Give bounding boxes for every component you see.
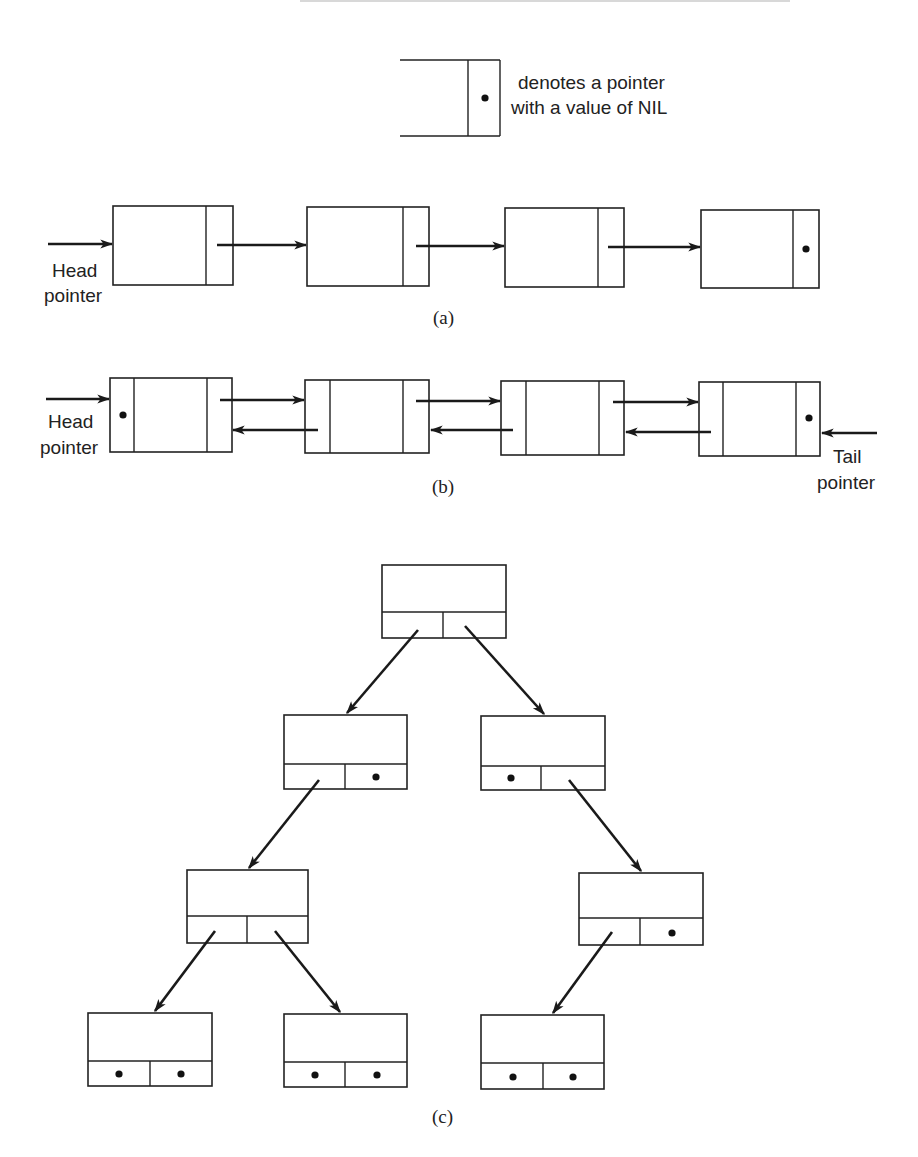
cropped-page-number bbox=[760, 0, 790, 2]
head-pointer-label-line2: pointer bbox=[40, 437, 99, 458]
head-pointer-label-line1: Head bbox=[48, 411, 93, 432]
figure-b-doubly-linked-list: Head pointer Ta bbox=[40, 378, 877, 498]
tree-node-root bbox=[382, 565, 506, 638]
nil-pointer-dot-icon bbox=[115, 1070, 122, 1077]
nil-pointer-dot-icon bbox=[802, 245, 809, 252]
figure-c-caption: (c) bbox=[432, 1106, 453, 1128]
cropped-page-header bbox=[300, 0, 770, 2]
dlist-node-4 bbox=[699, 382, 820, 456]
tree-node-n3 bbox=[187, 870, 308, 943]
left-child-arrow-icon bbox=[155, 931, 215, 1011]
left-child-arrow-icon bbox=[347, 630, 418, 713]
tree-node-n5 bbox=[88, 1013, 212, 1086]
nil-pointer-dot-icon bbox=[481, 94, 488, 101]
nil-pointer-dot-icon bbox=[507, 774, 514, 781]
nil-pointer-dot-icon bbox=[177, 1070, 184, 1077]
tree-node-n4 bbox=[579, 873, 703, 945]
nil-pointer-dot-icon bbox=[119, 411, 126, 418]
tree-node-n2 bbox=[481, 716, 605, 790]
list-node-3 bbox=[505, 208, 624, 287]
tail-pointer-label-line1: Tail bbox=[833, 446, 862, 467]
head-pointer-label-line1: Head bbox=[52, 260, 97, 281]
diagram-canvas: denotes a pointer with a value of NIL He… bbox=[0, 0, 918, 1157]
left-child-arrow-icon bbox=[553, 932, 612, 1013]
nil-pointer-dot-icon bbox=[372, 773, 379, 780]
legend-text-line2: with a value of NIL bbox=[510, 97, 667, 118]
left-child-arrow-icon bbox=[249, 780, 319, 868]
list-node-4 bbox=[701, 210, 819, 288]
figure-a-singly-linked-list: Head pointer (a) bbox=[44, 206, 819, 329]
nil-pointer-dot-icon bbox=[509, 1073, 516, 1080]
nil-pointer-dot-icon bbox=[569, 1073, 576, 1080]
nil-pointer-dot-icon bbox=[805, 414, 812, 421]
figure-a-caption: (a) bbox=[433, 307, 454, 329]
list-node-2 bbox=[307, 207, 429, 286]
tree-node-n1 bbox=[284, 715, 407, 789]
dlist-node-3 bbox=[501, 381, 624, 455]
list-node-1 bbox=[113, 206, 233, 285]
head-pointer-label-line2: pointer bbox=[44, 285, 103, 306]
dlist-node-1 bbox=[110, 378, 232, 452]
nil-pointer-dot-icon bbox=[373, 1071, 380, 1078]
nil-pointer-dot-icon bbox=[668, 929, 675, 936]
right-child-arrow-icon bbox=[465, 626, 544, 714]
tail-pointer-label-line2: pointer bbox=[817, 472, 876, 493]
right-child-arrow-icon bbox=[569, 780, 641, 871]
tree-node-n7 bbox=[481, 1015, 604, 1089]
figure-c-binary-tree: (c) bbox=[88, 565, 703, 1128]
tree-node-n6 bbox=[284, 1014, 407, 1087]
nil-pointer-dot-icon bbox=[311, 1071, 318, 1078]
legend: denotes a pointer with a value of NIL bbox=[400, 60, 667, 136]
figure-b-caption: (b) bbox=[432, 476, 454, 498]
legend-text-line1: denotes a pointer bbox=[518, 72, 666, 93]
dlist-node-2 bbox=[305, 380, 429, 453]
